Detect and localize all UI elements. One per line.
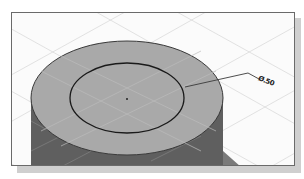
center-point	[126, 98, 128, 100]
viewport-frame	[11, 12, 295, 166]
cylinder	[31, 41, 241, 166]
cad-viewport	[12, 13, 295, 166]
